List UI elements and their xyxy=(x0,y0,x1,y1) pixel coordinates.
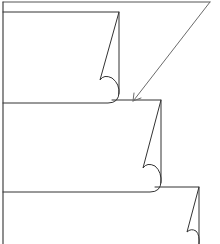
frame xyxy=(3,2,210,244)
sheet-2-curl-icon xyxy=(143,100,161,183)
sheet-3 xyxy=(155,187,199,244)
arrow-down-left-icon xyxy=(133,2,210,101)
sheet-2-outline xyxy=(3,100,161,192)
arrow-shaft xyxy=(134,2,210,100)
sheet-3-curl-icon xyxy=(187,187,199,244)
stacked-pages-diagram xyxy=(0,0,220,244)
sheet-1 xyxy=(3,12,119,103)
sheet-1-outline xyxy=(3,12,119,103)
sheet-2 xyxy=(3,100,161,192)
sheet-1-curl-icon xyxy=(100,12,119,94)
sheet-3-outline xyxy=(155,187,199,244)
